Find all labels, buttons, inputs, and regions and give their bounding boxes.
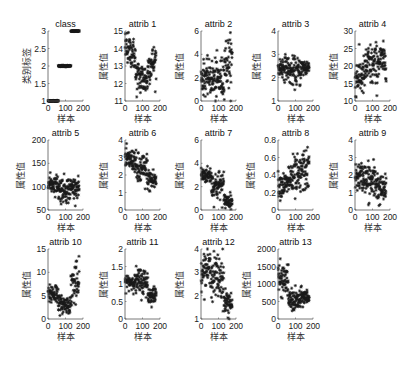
star-marker-icon (150, 305, 153, 308)
star-marker-icon (280, 195, 283, 198)
star-marker-icon (148, 82, 151, 85)
star-marker-icon (222, 277, 225, 280)
x-tick-label: 0 (46, 321, 51, 331)
subplot-title: attrib 2 (205, 19, 233, 29)
x-tick-label: 200 (383, 212, 397, 222)
subplot-title: attrib 12 (202, 237, 235, 247)
star-marker-icon (286, 190, 289, 193)
x-tick-label: 200 (153, 103, 167, 113)
x-tick-label: 100 (58, 103, 72, 113)
star-marker-icon (291, 152, 294, 155)
x-tick-label: 0 (276, 212, 281, 222)
star-marker-icon (139, 161, 142, 164)
x-tick-label: 200 (76, 212, 90, 222)
star-marker-icon (358, 43, 361, 46)
subplot-attrib-13: 05001000150020000100200attrib 13样本属性值 (241, 237, 320, 342)
star-marker-icon (153, 185, 156, 188)
subplot-title: attrib 7 (205, 128, 233, 138)
x-tick-label: 200 (229, 103, 243, 113)
star-marker-icon (134, 49, 137, 52)
star-marker-icon (213, 73, 216, 76)
star-marker-icon (146, 159, 149, 162)
y-tick-label: 500 (262, 297, 276, 307)
y-tick-label: 3 (118, 153, 123, 163)
star-marker-icon (306, 290, 309, 293)
subplot-attrib-10: 0510150100200attrib 10样本属性值 (21, 237, 90, 342)
star-marker-icon (148, 190, 151, 193)
star-marker-icon (218, 170, 221, 173)
star-marker-icon (281, 61, 284, 64)
star-marker-icon (221, 247, 224, 250)
x-tick-label: 100 (135, 212, 149, 222)
star-marker-icon (73, 178, 76, 181)
star-marker-icon (200, 290, 203, 293)
star-marker-icon (230, 48, 233, 51)
star-marker-icon (131, 277, 134, 280)
star-marker-icon (288, 64, 291, 67)
star-marker-icon (383, 185, 386, 188)
star-marker-icon (152, 69, 155, 72)
star-marker-icon (381, 175, 384, 178)
star-marker-icon (137, 151, 140, 154)
star-marker-icon (299, 76, 302, 79)
star-marker-icon (125, 285, 128, 288)
star-marker-icon (221, 174, 224, 177)
subplot-title: attrib 9 (359, 128, 387, 138)
star-marker-icon (307, 69, 310, 72)
star-marker-icon (294, 197, 297, 200)
subplot-title: attrib 1 (129, 19, 157, 29)
star-marker-icon (134, 56, 137, 59)
star-marker-icon (230, 292, 233, 295)
subplot-attrib-11: 00.511.520100200attrib 11样本属性值 (98, 237, 167, 342)
y-tick-label: 3 (271, 49, 276, 59)
star-marker-icon (209, 167, 212, 170)
star-marker-icon (229, 191, 232, 194)
star-marker-icon (222, 266, 225, 269)
star-marker-icon (361, 62, 364, 65)
y-tick-label: 2 (118, 244, 123, 254)
star-marker-icon (229, 74, 232, 77)
star-marker-icon (231, 298, 234, 301)
star-marker-icon (134, 291, 137, 294)
star-marker-icon (359, 87, 362, 90)
star-marker-icon (308, 296, 311, 299)
star-marker-icon (300, 176, 303, 179)
star-marker-icon (305, 178, 308, 181)
scatter-points (124, 31, 158, 99)
x-axis-label: 样本 (287, 222, 305, 233)
star-marker-icon (222, 170, 225, 173)
star-marker-icon (281, 76, 284, 79)
star-marker-icon (227, 311, 230, 314)
star-marker-icon (229, 208, 232, 211)
star-marker-icon (362, 186, 365, 189)
star-marker-icon (216, 253, 219, 256)
y-tick-label: 15 (114, 26, 124, 36)
star-marker-icon (74, 265, 77, 268)
star-marker-icon (226, 79, 229, 82)
star-marker-icon (222, 180, 225, 183)
star-marker-icon (384, 195, 387, 198)
star-marker-icon (286, 270, 289, 273)
star-marker-icon (77, 285, 80, 288)
star-marker-icon (371, 48, 374, 51)
y-tick-label: 2 (194, 291, 199, 301)
y-axis-label: 属性值 (98, 271, 109, 298)
star-marker-icon (307, 184, 310, 187)
subplot-attrib-9: 012340100200attrib 9样本属性值 (328, 128, 397, 233)
star-marker-icon (294, 61, 297, 64)
y-axis-label: 属性值 (98, 53, 109, 80)
star-marker-icon (58, 314, 61, 317)
star-marker-icon (373, 57, 376, 60)
star-marker-icon (54, 196, 57, 199)
star-marker-icon (279, 199, 282, 202)
star-marker-icon (77, 193, 80, 196)
star-marker-icon (231, 202, 234, 205)
subplot-title: attrib 13 (279, 237, 312, 247)
subplot-attrib-3: 12340100200attrib 3样本属性值 (251, 19, 320, 124)
star-marker-icon (224, 47, 227, 50)
x-tick-label: 0 (46, 212, 51, 222)
x-tick-label: 100 (58, 212, 72, 222)
subplot-attrib-5: 501001502000100200attrib 5样本属性值 (15, 128, 90, 233)
star-marker-icon (215, 257, 218, 260)
subplot-title: attrib 10 (49, 237, 82, 247)
